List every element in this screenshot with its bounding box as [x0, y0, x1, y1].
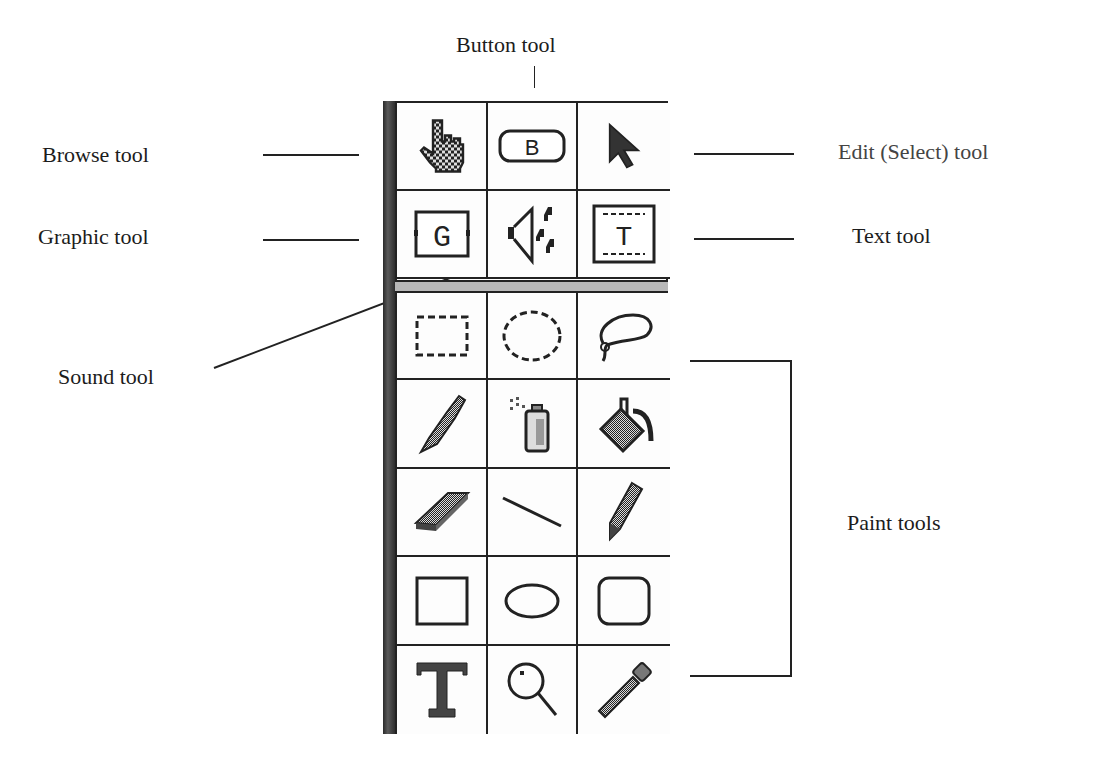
magnifier-icon — [504, 659, 560, 721]
tool-sound[interactable] — [488, 191, 578, 279]
tool-brush[interactable] — [397, 380, 488, 469]
tool-marquee-select[interactable] — [397, 293, 488, 380]
svg-text:T: T — [616, 222, 633, 253]
tool-rounded-rectangle[interactable] — [578, 557, 670, 646]
tool-eraser[interactable] — [397, 469, 488, 557]
tool-lasso[interactable] — [578, 293, 670, 380]
line-icon — [499, 492, 565, 532]
svg-text:G: G — [432, 221, 450, 255]
tool-button[interactable]: B — [488, 103, 578, 191]
pencil-icon — [602, 479, 646, 545]
hand-pointer-icon — [418, 117, 466, 175]
palette-drag-bar[interactable] — [383, 101, 395, 734]
tool-spray-can[interactable] — [488, 380, 578, 469]
palette-divider — [395, 280, 668, 293]
paint-bucket-icon — [593, 393, 655, 455]
tool-oval[interactable] — [488, 557, 578, 646]
tool-text-field[interactable]: T — [578, 191, 670, 279]
spray-can-icon — [506, 393, 558, 455]
graphic-g-icon: G — [412, 208, 472, 260]
rectangle-icon — [414, 575, 470, 627]
paint-text-t-icon — [415, 661, 469, 719]
arrow-pointer-icon — [604, 121, 644, 171]
tool-oval-select[interactable] — [488, 293, 578, 380]
eraser-icon — [412, 489, 472, 535]
tool-browse[interactable] — [397, 103, 488, 191]
oval-icon — [503, 582, 561, 620]
tool-edit-select[interactable] — [578, 103, 670, 191]
tool-paint-text[interactable] — [397, 646, 488, 734]
authoring-tools-grid: B G — [395, 101, 668, 280]
tool-rectangle[interactable] — [397, 557, 488, 646]
tool-magnifier[interactable] — [488, 646, 578, 734]
tool-pencil[interactable] — [578, 469, 670, 557]
svg-text:B: B — [525, 135, 540, 160]
tool-eyedropper[interactable] — [578, 646, 670, 734]
tools-palette: B G — [383, 101, 670, 734]
tool-line[interactable] — [488, 469, 578, 557]
dashed-oval-icon — [501, 309, 563, 363]
speaker-notes-icon — [502, 199, 562, 269]
button-b-icon: B — [497, 126, 567, 166]
brush-icon — [415, 392, 469, 456]
rounded-rectangle-icon — [596, 575, 652, 627]
eyedropper-icon — [593, 659, 655, 721]
dashed-rectangle-icon — [414, 314, 470, 358]
paint-tools-grid — [395, 293, 668, 734]
lasso-icon — [593, 309, 655, 363]
tool-paint-bucket[interactable] — [578, 380, 670, 469]
tool-graphic[interactable]: G — [397, 191, 488, 279]
text-field-t-icon: T — [591, 203, 657, 265]
